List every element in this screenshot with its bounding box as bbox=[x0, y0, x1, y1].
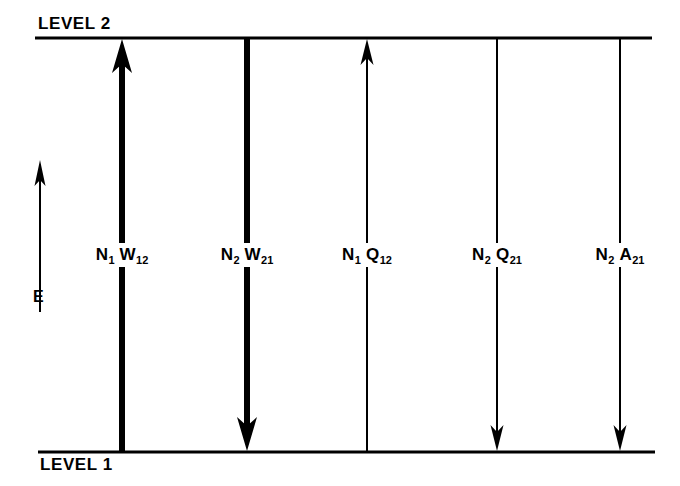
rate-subscript-n2q21: 21 bbox=[510, 254, 522, 266]
species-symbol-n2a21: N bbox=[596, 245, 609, 264]
rate-subscript-n2a21: 21 bbox=[632, 254, 644, 266]
rate-symbol-n2q21: Q bbox=[496, 245, 510, 264]
transition-label-n2a21: N2A21 bbox=[592, 243, 649, 267]
species-subscript-n1w12: 1 bbox=[108, 254, 114, 266]
species-subscript-n2q21: 2 bbox=[485, 254, 491, 266]
species-symbol-n2q21: N bbox=[472, 245, 485, 264]
species-subscript-n1q12: 1 bbox=[355, 254, 361, 266]
energy-level-diagram: LEVEL 2 LEVEL 1 E N1W12N2W21N1Q12N2Q21N2… bbox=[0, 0, 680, 486]
energy-axis-label: E bbox=[33, 288, 44, 306]
rate-subscript-n2w21: 21 bbox=[261, 254, 273, 266]
level-1-label: LEVEL 1 bbox=[40, 455, 113, 475]
transition-label-n1w12: N1W12 bbox=[92, 243, 153, 267]
species-symbol-n1w12: N bbox=[96, 245, 109, 264]
rate-symbol-n1q12: Q bbox=[366, 245, 380, 264]
transition-label-n2w21: N2W21 bbox=[217, 243, 278, 267]
transition-label-n2q21: N2Q21 bbox=[468, 243, 526, 267]
species-symbol-n1q12: N bbox=[342, 245, 355, 264]
rate-symbol-n2w21: W bbox=[245, 245, 262, 264]
species-subscript-n2w21: 2 bbox=[233, 254, 239, 266]
rate-subscript-n1q12: 12 bbox=[380, 254, 392, 266]
level-2-label: LEVEL 2 bbox=[38, 14, 111, 34]
transition-label-n1q12: N1Q12 bbox=[338, 243, 396, 267]
rate-symbol-n1w12: W bbox=[120, 245, 137, 264]
rate-subscript-n1w12: 12 bbox=[136, 254, 148, 266]
species-subscript-n2a21: 2 bbox=[608, 254, 614, 266]
species-symbol-n2w21: N bbox=[221, 245, 234, 264]
rate-symbol-n2a21: A bbox=[619, 245, 632, 264]
